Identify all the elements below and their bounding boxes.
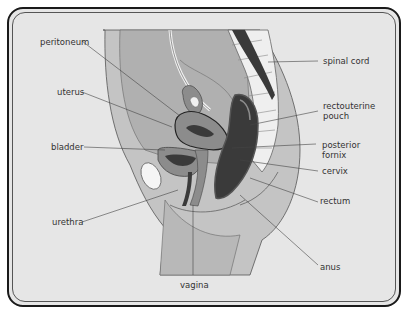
label-posterior-fornix-line1: posterior (322, 140, 360, 150)
label-rectouterine-pouch-line1: rectouterine (323, 101, 375, 111)
label-peritoneum: peritoneum (40, 37, 89, 47)
label-uterus: uterus (57, 87, 84, 97)
label-cervix: cervix (322, 166, 348, 176)
label-rectum: rectum (320, 196, 350, 206)
label-anus: anus (320, 262, 340, 272)
label-urethra: urethra (52, 217, 83, 227)
label-vagina: vagina (180, 280, 209, 290)
pelvic-anatomy-diagram (0, 0, 412, 320)
label-rectouterine-pouch-line2: pouch (323, 111, 349, 121)
label-spinal-cord: spinal cord (323, 56, 369, 66)
label-posterior-fornix-line2: fornix (322, 150, 346, 160)
label-bladder: bladder (51, 142, 83, 152)
